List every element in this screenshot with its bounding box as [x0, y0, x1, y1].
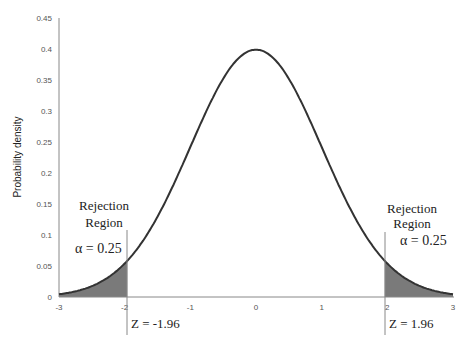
y-axis-label: Probability density	[12, 116, 23, 197]
left-alpha-label: α = 0.25	[75, 241, 122, 256]
right-rejection-region	[385, 261, 453, 297]
y-tick-label: 0.2	[41, 169, 53, 178]
right-critical-value: Z = 1.96	[389, 316, 434, 331]
y-tick-label: 0.05	[36, 262, 52, 271]
x-tick-label: 1	[319, 303, 324, 312]
x-tick-label: 3	[451, 303, 456, 312]
right-region-title-line2: Region	[393, 216, 431, 231]
x-tick-label: 2	[385, 303, 390, 312]
right-region-title-line1: Rejection	[387, 201, 437, 216]
y-tick-label: 0.25	[36, 138, 52, 147]
left-region-title-line2: Region	[85, 215, 123, 230]
y-tick-label: 0.15	[36, 200, 52, 209]
x-tick-labels: -3-2-10123	[55, 303, 455, 312]
y-tick-label: 0.3	[41, 107, 53, 116]
x-tick-label: -3	[55, 303, 63, 312]
y-tick-label: 0.4	[41, 45, 53, 54]
normal-distribution-chart: 00.050.10.150.20.250.30.350.40.45 -3-2-1…	[0, 0, 468, 345]
left-rejection-region	[59, 261, 127, 297]
right-alpha-label: α = 0.25	[400, 233, 447, 248]
x-tick-label: -2	[121, 303, 129, 312]
y-tick-label: 0	[48, 293, 53, 302]
left-critical-value: Z = -1.96	[131, 316, 180, 331]
left-region-title-line1: Rejection	[79, 198, 129, 213]
y-tick-label: 0.35	[36, 76, 52, 85]
y-tick-labels: 00.050.10.150.20.250.30.350.40.45	[36, 14, 52, 302]
y-tick-label: 0.45	[36, 14, 52, 23]
x-tick-label: -1	[187, 303, 195, 312]
density-curve	[59, 50, 453, 295]
y-tick-label: 0.1	[41, 231, 53, 240]
x-tick-label: 0	[254, 303, 259, 312]
